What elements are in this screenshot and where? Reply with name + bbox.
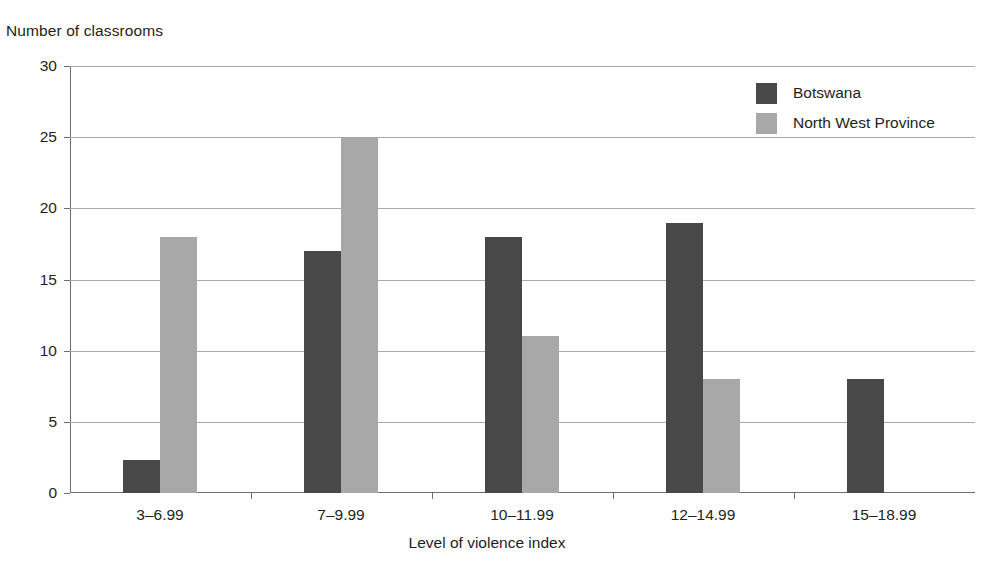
y-axis-tick-label: 30 — [40, 57, 57, 75]
x-axis-tick-label: 7–9.99 — [317, 506, 364, 524]
legend-label-botswana: Botswana — [793, 84, 861, 102]
x-axis-tick-mark — [794, 493, 795, 499]
y-axis-tick-label: 0 — [48, 484, 57, 502]
bar — [666, 223, 703, 493]
bar — [123, 460, 160, 493]
x-axis-tick-label: 12–14.99 — [671, 506, 736, 524]
legend-swatch-botswana — [756, 83, 777, 104]
x-axis-tick-mark — [613, 493, 614, 499]
y-axis-tick-label: 10 — [40, 342, 57, 360]
gridline — [70, 66, 975, 67]
legend: Botswana North West Province — [756, 78, 935, 138]
bar — [160, 237, 197, 493]
bar — [341, 137, 378, 493]
legend-label-north-west-province: North West Province — [793, 114, 935, 132]
y-axis-tick-mark — [64, 493, 70, 494]
x-axis-title-text: Level of violence index — [409, 534, 566, 552]
y-axis-tick-mark — [64, 208, 70, 209]
x-axis-tick-label: 10–11.99 — [490, 506, 554, 524]
y-axis-tick-label: 20 — [40, 199, 57, 217]
y-axis-tick-label: 25 — [40, 128, 57, 146]
x-axis-tick-mark — [251, 493, 252, 499]
legend-item-north-west-province: North West Province — [756, 108, 935, 138]
x-axis-title: Level of violence index — [0, 534, 992, 552]
y-axis-tick-mark — [64, 66, 70, 67]
bar — [304, 251, 341, 493]
y-axis-tick-mark — [64, 137, 70, 138]
legend-item-botswana: Botswana — [756, 78, 935, 108]
y-axis-tick-mark — [64, 351, 70, 352]
bar — [522, 336, 559, 493]
x-axis-tick-label: 15–18.99 — [852, 506, 917, 524]
gridline — [70, 280, 975, 281]
legend-swatch-north-west-province — [756, 113, 777, 134]
bar — [485, 237, 522, 493]
y-axis-tick-label: 5 — [48, 413, 57, 431]
gridline — [70, 208, 975, 209]
bar — [703, 379, 740, 493]
bar-chart: Number of classrooms 051015202530 3–6.99… — [0, 0, 992, 573]
y-axis-tick-mark — [64, 422, 70, 423]
x-axis-tick-mark — [432, 493, 433, 499]
y-axis-tick-mark — [64, 280, 70, 281]
bar — [847, 379, 884, 493]
y-axis-title: Number of classrooms — [6, 22, 163, 40]
x-axis-tick-label: 3–6.99 — [136, 506, 183, 524]
y-axis-tick-label: 15 — [40, 271, 57, 289]
